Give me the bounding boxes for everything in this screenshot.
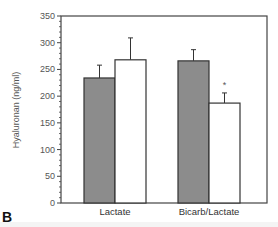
y-tick-label: 250 [40,64,55,74]
bar-open [115,60,146,203]
bar-shaded [84,78,115,203]
y-axis-title: Hyaluronan (ng/ml) [11,72,21,149]
x-axis: LactateBicarb/Lactate [99,206,239,217]
y-axis: 050100150200250300350 [40,11,61,208]
bars: * [84,38,240,203]
bottom-strip [0,222,278,227]
x-category-label: Bicarb/Lactate [179,206,240,217]
y-tick-label: 150 [40,118,55,128]
y-tick-label: 0 [50,198,55,208]
y-tick-label: 300 [40,38,55,48]
bar-chart: 050100150200250300350 * LactateBicarb/La… [0,0,278,227]
x-category-label: Lactate [99,206,130,217]
y-tick-label: 200 [40,91,55,101]
bar-shaded [178,61,209,203]
y-tick-label: 350 [40,11,55,21]
significance-marker: * [223,80,227,90]
y-tick-label: 50 [45,171,55,181]
y-tick-label: 100 [40,145,55,155]
bar-open [209,103,240,203]
